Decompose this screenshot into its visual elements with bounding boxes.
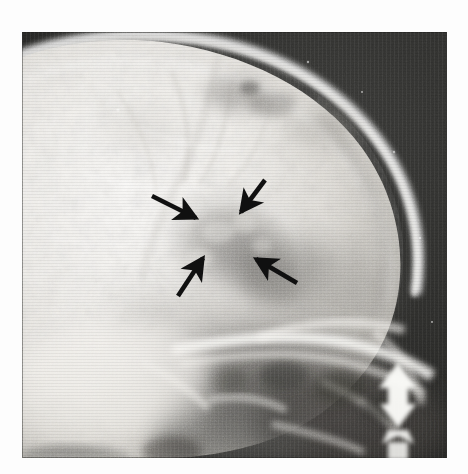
annotation-layer — [22, 32, 447, 458]
figure-page — [0, 0, 468, 474]
annotation-arrow-4 — [178, 258, 203, 296]
radiograph-plate — [22, 32, 447, 458]
annotation-arrow-3 — [256, 259, 297, 283]
annotation-arrow-1 — [152, 196, 196, 218]
caption-area — [0, 460, 468, 474]
white-arrow-marker — [379, 362, 417, 458]
annotation-arrow-2 — [241, 180, 265, 212]
